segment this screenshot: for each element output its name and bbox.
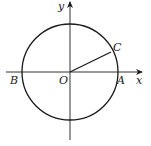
x-axis-label: x [136,74,143,87]
point-label-o: O [59,74,68,87]
point-label-c: C [113,41,122,54]
unit-circle-diagram: y x O A B C [0,0,151,146]
point-label-b: B [9,74,18,87]
y-axis-label: y [57,0,65,13]
segment-oc [70,52,111,72]
point-label-a: A [116,74,125,87]
